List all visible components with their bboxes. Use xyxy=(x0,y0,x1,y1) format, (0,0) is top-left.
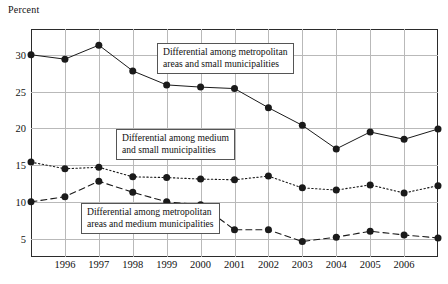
annotation-medium-small: Differential among medium and small muni… xyxy=(116,129,235,160)
annotation-line-1: Differential among metropolitan xyxy=(87,206,214,218)
data-point-marker xyxy=(367,181,374,188)
data-point-marker xyxy=(163,81,170,88)
data-point-marker xyxy=(129,67,136,74)
data-point-marker xyxy=(401,190,408,197)
annotation-metropolitan-medium: Differential among metropolitan areas an… xyxy=(81,203,220,234)
data-point-marker xyxy=(435,126,442,133)
data-point-marker xyxy=(299,184,306,191)
x-axis-tick-label: 2004 xyxy=(326,259,347,270)
data-point-marker xyxy=(299,238,306,245)
data-point-marker xyxy=(435,182,442,189)
data-point-marker xyxy=(129,173,136,180)
data-point-marker xyxy=(231,226,238,233)
annotation-line-2: and small municipalities xyxy=(122,144,229,156)
x-axis-tick-label: 1998 xyxy=(122,259,143,270)
plot-area: Differential among metropolitan areas an… xyxy=(31,29,438,257)
data-point-marker xyxy=(197,176,204,183)
data-point-marker xyxy=(333,234,340,241)
data-point-marker xyxy=(265,226,272,233)
data-point-marker xyxy=(299,122,306,129)
data-point-marker xyxy=(61,193,68,200)
y-axis-tick-label: 25 xyxy=(16,86,27,97)
data-point-marker xyxy=(333,145,340,152)
annotation-line-1: Differential among metropolitan xyxy=(163,46,288,58)
x-axis-tick-label: 1999 xyxy=(156,259,177,270)
data-point-marker xyxy=(61,165,68,172)
y-axis-tick-label: 20 xyxy=(16,123,27,134)
x-axis-tick-label: 2005 xyxy=(360,259,381,270)
annotation-line-1: Differential among medium xyxy=(122,132,229,144)
x-axis-tick-label: 2002 xyxy=(258,259,279,270)
data-point-marker xyxy=(197,84,204,91)
annotation-metropolitan-small: Differential among metropolitan areas an… xyxy=(157,43,294,74)
data-point-marker xyxy=(435,234,442,241)
y-axis-tick-label: 5 xyxy=(21,233,26,244)
x-axis-tick-label: 2003 xyxy=(292,259,313,270)
y-axis-title: Percent xyxy=(8,4,39,15)
data-point-marker xyxy=(367,128,374,135)
data-point-marker xyxy=(231,176,238,183)
annotation-line-2: areas and medium municipalities xyxy=(87,218,214,230)
data-point-marker xyxy=(163,174,170,181)
x-axis-tick-label: 1997 xyxy=(88,259,109,270)
data-point-marker xyxy=(95,178,102,185)
x-axis-tick-label: 2000 xyxy=(190,259,211,270)
x-axis-tick-label: 2006 xyxy=(394,259,415,270)
data-point-marker xyxy=(28,198,35,205)
annotation-line-2: areas and small municipalities xyxy=(163,58,288,70)
data-point-marker xyxy=(28,159,35,166)
data-point-marker xyxy=(401,136,408,143)
data-point-marker xyxy=(265,104,272,111)
data-point-marker xyxy=(401,231,408,238)
y-axis-tick-label: 15 xyxy=(16,160,27,171)
data-point-marker xyxy=(61,56,68,63)
series-2 xyxy=(28,159,442,197)
chart-container: Percent 51015202530 Differential among m… xyxy=(0,0,448,284)
y-axis-tick-label: 10 xyxy=(16,196,27,207)
data-point-marker xyxy=(28,51,35,58)
data-point-marker xyxy=(333,187,340,194)
data-point-marker xyxy=(231,85,238,92)
data-point-marker xyxy=(265,173,272,180)
x-axis-tick-labels: 1996199719981999200020012002200320042005… xyxy=(31,259,438,279)
y-axis-tick-label: 30 xyxy=(16,49,27,60)
x-axis-tick-label: 2001 xyxy=(224,259,245,270)
y-axis-tick-labels: 51015202530 xyxy=(0,29,31,257)
data-point-marker xyxy=(95,164,102,171)
data-point-marker xyxy=(95,42,102,49)
data-point-marker xyxy=(129,189,136,196)
x-axis-tick-label: 1996 xyxy=(54,259,75,270)
data-point-marker xyxy=(367,228,374,235)
